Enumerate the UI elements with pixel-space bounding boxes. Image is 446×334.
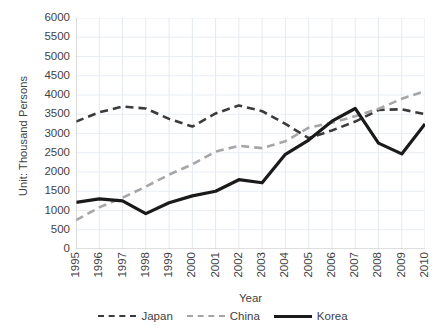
x-tick-label: 2002 bbox=[233, 252, 245, 278]
series-line-korea bbox=[76, 108, 425, 213]
y-tick-label: 5500 bbox=[44, 31, 70, 43]
x-tick-label: 1995 bbox=[70, 252, 82, 278]
y-tick-label: 4500 bbox=[44, 70, 70, 82]
x-tick-label: 2009 bbox=[396, 252, 408, 278]
legend-item-china[interactable]: China bbox=[187, 310, 260, 322]
x-tick-label: 2005 bbox=[303, 252, 315, 278]
legend-swatch-icon bbox=[187, 315, 225, 317]
y-tick-label: 1500 bbox=[44, 185, 70, 197]
y-tick-label: 2000 bbox=[44, 166, 70, 178]
x-tick-label: 2008 bbox=[372, 252, 384, 278]
x-axis-title: Year bbox=[76, 292, 425, 304]
chart-legend: JapanChinaKorea bbox=[0, 310, 446, 322]
y-tick-label: 5000 bbox=[44, 51, 70, 63]
series-line-china bbox=[76, 91, 425, 220]
x-tick-label: 1998 bbox=[140, 252, 152, 278]
y-tick-label: 500 bbox=[51, 224, 70, 236]
y-tick-label: 3500 bbox=[44, 108, 70, 120]
legend-swatch-icon bbox=[274, 315, 312, 318]
legend-label: Korea bbox=[317, 310, 348, 322]
x-tick-label: 2006 bbox=[326, 252, 338, 278]
plot-area bbox=[76, 18, 425, 249]
x-tick-label: 2004 bbox=[279, 252, 291, 278]
y-tick-label: 2500 bbox=[44, 147, 70, 159]
x-tick-label: 2000 bbox=[186, 252, 198, 278]
legend-item-korea[interactable]: Korea bbox=[274, 310, 348, 322]
legend-swatch-icon bbox=[98, 315, 136, 317]
y-tick-label: 4000 bbox=[44, 89, 70, 101]
x-tick-label: 1999 bbox=[163, 252, 175, 278]
x-tick-label: 2007 bbox=[349, 252, 361, 278]
series-lines bbox=[76, 91, 425, 220]
x-tick-label: 2001 bbox=[210, 252, 222, 278]
x-tick-label: 1997 bbox=[117, 252, 129, 278]
plot-svg bbox=[76, 18, 425, 249]
x-tick-label: 2010 bbox=[419, 252, 431, 278]
x-tick-label: 1996 bbox=[93, 252, 105, 278]
legend-label: China bbox=[230, 310, 260, 322]
y-axis-ticks: 0500100015002000250030003500400045005000… bbox=[22, 0, 70, 334]
line-chart: Unit: Thousand Persons 05001000150020002… bbox=[0, 0, 446, 334]
y-tick-label: 3000 bbox=[44, 128, 70, 140]
legend-item-japan[interactable]: Japan bbox=[98, 310, 172, 322]
x-tick-label: 2003 bbox=[256, 252, 268, 278]
y-tick-label: 1000 bbox=[44, 205, 70, 217]
y-tick-label: 6000 bbox=[44, 12, 70, 24]
legend-label: Japan bbox=[141, 310, 172, 322]
